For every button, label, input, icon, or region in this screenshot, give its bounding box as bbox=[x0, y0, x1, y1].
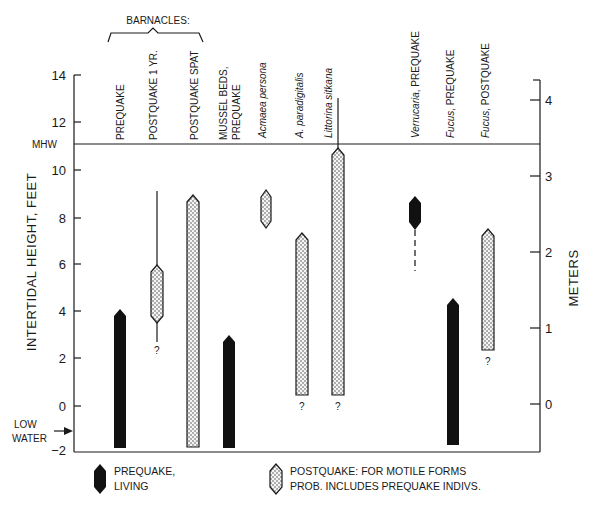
question-mark: ? bbox=[299, 401, 305, 412]
bar-mussel-beds bbox=[223, 335, 235, 448]
legend-prequake-line1: PREQUAKE, bbox=[114, 465, 175, 477]
cat-barnacle-postquake-1yr: POSTQUAKE 1 YR. bbox=[148, 50, 159, 140]
question-mark: ? bbox=[154, 345, 160, 356]
legend-postquake-line1: POSTQUAKE: FOR MOTILE FORMS bbox=[290, 465, 466, 477]
ytick-12: 12 bbox=[52, 115, 66, 130]
arrow-icon bbox=[64, 427, 73, 435]
bar-barnacle-prequake bbox=[114, 309, 126, 448]
bar-littorina-sitkana bbox=[332, 148, 344, 395]
low-water-label-2: WATER bbox=[12, 433, 47, 444]
bar-fucus-prequake bbox=[447, 298, 459, 445]
legend-postquake-swatch bbox=[270, 464, 282, 494]
cat-mussel-beds-2: PREQUAKE bbox=[231, 84, 242, 140]
rtick-3: 3 bbox=[545, 169, 552, 184]
bar-barnacle-postquake-spat bbox=[187, 195, 199, 447]
series-postquake: ? ? ? ? bbox=[151, 98, 494, 447]
ytick-8: 8 bbox=[59, 211, 66, 226]
rtick-4: 4 bbox=[545, 93, 552, 108]
cat-barnacle-prequake: PREQUAKE bbox=[115, 84, 126, 140]
left-axis: 14 12 10 8 6 4 2 0 −2 INTERTIDAL HEIGHT,… bbox=[24, 68, 81, 458]
bar-fucus-postquake bbox=[482, 229, 494, 350]
low-water-marker: LOW WATER bbox=[12, 419, 73, 444]
ytick-4: 4 bbox=[59, 304, 66, 319]
legend-prequake-swatch bbox=[94, 464, 106, 494]
right-axis-title: METERS bbox=[566, 249, 581, 306]
ytick-2: 2 bbox=[59, 351, 66, 366]
right-axis: 4 3 2 1 0 METERS bbox=[530, 80, 581, 452]
legend-prequake-line2: LIVING bbox=[114, 480, 148, 492]
ytick-minus-2: −2 bbox=[51, 443, 66, 458]
legend-postquake-line2: PROB. INCLUDES PREQUAKE INDIVS. bbox=[290, 480, 481, 492]
y-axis-title: INTERTIDAL HEIGHT, FEET bbox=[24, 173, 39, 351]
range-chart: BARNACLES: PREQUAKE POSTQUAKE 1 YR. POST… bbox=[0, 0, 598, 508]
cat-verrucaria-prequake: Verrucaria, PREQUAKE bbox=[410, 31, 421, 138]
group-label: BARNACLES: bbox=[126, 15, 189, 26]
rtick-0: 0 bbox=[545, 397, 552, 412]
low-water-label-1: LOW bbox=[14, 419, 37, 430]
bar-acmaea-persona bbox=[261, 190, 271, 228]
cat-fucus-postquake: Fucus, POSTQUAKE bbox=[480, 43, 491, 138]
ytick-6: 6 bbox=[59, 257, 66, 272]
question-mark: ? bbox=[485, 356, 491, 367]
ytick-0: 0 bbox=[59, 399, 66, 414]
category-labels: PREQUAKE POSTQUAKE 1 YR. POSTQUAKE SPAT … bbox=[115, 31, 491, 140]
cat-mussel-beds-1: MUSSEL BEDS, bbox=[218, 66, 229, 140]
bar-verrucaria bbox=[409, 196, 421, 230]
ytick-10: 10 bbox=[52, 163, 66, 178]
bar-a-paradigitalis bbox=[296, 233, 308, 395]
cat-acmaea-persona: Acmaea persona bbox=[257, 62, 268, 139]
legend: PREQUAKE, LIVING POSTQUAKE: FOR MOTILE F… bbox=[94, 464, 481, 494]
bar-barnacle-postquake-1yr bbox=[151, 265, 163, 323]
cat-fucus-prequake: Fucus, PREQUAKE bbox=[445, 49, 456, 138]
rtick-2: 2 bbox=[545, 245, 552, 260]
rtick-1: 1 bbox=[545, 321, 552, 336]
ytick-14: 14 bbox=[52, 68, 66, 83]
series-prequake bbox=[114, 196, 459, 448]
mhw-line: MHW bbox=[32, 139, 540, 150]
cat-littorina-sitkana: Littorina sitkana bbox=[323, 68, 334, 138]
question-mark: ? bbox=[335, 401, 341, 412]
mhw-label: MHW bbox=[32, 139, 58, 150]
barnacles-brace: BARNACLES: bbox=[108, 15, 203, 42]
cat-barnacle-postquake-spat: POSTQUAKE SPAT bbox=[189, 50, 200, 140]
cat-a-paradigitalis: A. paradigitalis bbox=[294, 72, 305, 139]
